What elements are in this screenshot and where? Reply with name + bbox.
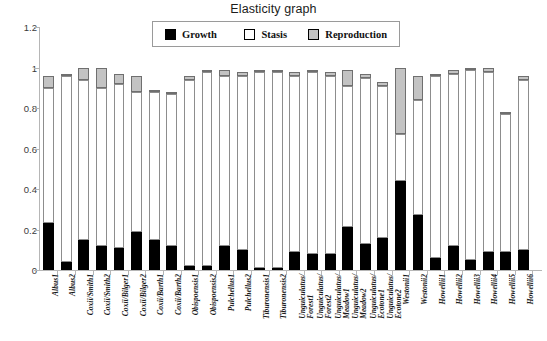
- x-axis-label: Coxii/Barth2: [175, 274, 183, 315]
- bar-stack[interactable]: [202, 70, 213, 270]
- bar-segment-reproduction[interactable]: [413, 76, 424, 100]
- bar-segment-growth[interactable]: [43, 223, 54, 270]
- y-tick-mark: [34, 189, 40, 190]
- bar-segment-growth[interactable]: [483, 252, 494, 270]
- bar-stack[interactable]: [342, 70, 353, 270]
- bar-segment-stasis[interactable]: [289, 76, 300, 252]
- bar-stack[interactable]: [377, 82, 388, 270]
- bar-segment-growth[interactable]: [289, 252, 300, 270]
- bar-segment-stasis[interactable]: [61, 76, 72, 262]
- bar-stack[interactable]: [289, 72, 300, 270]
- bar-segment-growth[interactable]: [395, 181, 406, 270]
- bar-stack[interactable]: [166, 92, 177, 270]
- x-axis-label: Coxii/Bilger2: [140, 274, 148, 316]
- bar-segment-growth[interactable]: [500, 252, 511, 270]
- bar-stack[interactable]: [219, 70, 230, 270]
- bar-segment-stasis[interactable]: [131, 92, 142, 232]
- bar-stack[interactable]: [43, 76, 54, 270]
- bar-segment-growth[interactable]: [342, 227, 353, 270]
- bar-segment-stasis[interactable]: [342, 86, 353, 228]
- bar-segment-stasis[interactable]: [166, 94, 177, 246]
- bar-stack[interactable]: [61, 74, 72, 270]
- bar-segment-reproduction[interactable]: [96, 68, 107, 88]
- bar-stack[interactable]: [518, 76, 529, 270]
- bar-segment-growth[interactable]: [413, 215, 424, 270]
- bar-segment-growth[interactable]: [272, 268, 283, 270]
- bar-stack[interactable]: [272, 70, 283, 270]
- bar-segment-stasis[interactable]: [78, 80, 89, 240]
- bar-stack[interactable]: [131, 76, 142, 270]
- x-axis-label: Coxii/Smith2: [104, 274, 112, 315]
- bar-segment-reproduction[interactable]: [43, 76, 54, 88]
- bar-segment-growth[interactable]: [307, 254, 318, 270]
- bar-segment-stasis[interactable]: [149, 92, 160, 240]
- bar-stack[interactable]: [237, 72, 248, 270]
- bar-segment-stasis[interactable]: [448, 74, 459, 246]
- bar-segment-growth[interactable]: [131, 232, 142, 270]
- bar-segment-growth[interactable]: [237, 250, 248, 270]
- bar-segment-growth[interactable]: [96, 246, 107, 270]
- bar-stack[interactable]: [360, 74, 371, 270]
- bar-segment-stasis[interactable]: [325, 76, 336, 254]
- bar-segment-growth[interactable]: [360, 244, 371, 270]
- bar-stack[interactable]: [465, 68, 476, 271]
- bar-stack[interactable]: [500, 112, 511, 270]
- bar-segment-reproduction[interactable]: [131, 76, 142, 92]
- bar-segment-growth[interactable]: [448, 246, 459, 270]
- bar-segment-growth[interactable]: [114, 248, 125, 270]
- bar-segment-growth[interactable]: [465, 260, 476, 270]
- bar-segment-reproduction[interactable]: [78, 68, 89, 80]
- bar-segment-stasis[interactable]: [360, 78, 371, 244]
- bar-segment-stasis[interactable]: [413, 100, 424, 215]
- bar-stack[interactable]: [448, 70, 459, 270]
- bar-segment-growth[interactable]: [202, 266, 213, 270]
- bar-segment-growth[interactable]: [430, 258, 441, 270]
- bar-segment-stasis[interactable]: [184, 80, 195, 266]
- bar-stack[interactable]: [325, 72, 336, 270]
- bar-segment-growth[interactable]: [78, 240, 89, 270]
- bar-segment-stasis[interactable]: [307, 72, 318, 254]
- bar-segment-stasis[interactable]: [114, 84, 125, 248]
- bar-segment-stasis[interactable]: [430, 76, 441, 258]
- bar-stack[interactable]: [307, 70, 318, 270]
- bar-stack[interactable]: [254, 70, 265, 270]
- bar-segment-growth[interactable]: [149, 240, 160, 270]
- bar-segment-stasis[interactable]: [465, 70, 476, 260]
- bar-stack[interactable]: [184, 76, 195, 270]
- bar-stack[interactable]: [96, 68, 107, 271]
- bar-segment-stasis[interactable]: [219, 76, 230, 246]
- bar-segment-growth[interactable]: [254, 268, 265, 270]
- bar-segment-stasis[interactable]: [377, 86, 388, 238]
- bar-segment-stasis[interactable]: [202, 72, 213, 266]
- bar-segment-reproduction[interactable]: [114, 74, 125, 84]
- bar-segment-growth[interactable]: [219, 246, 230, 270]
- bar-segment-reproduction[interactable]: [395, 68, 406, 135]
- bar-segment-stasis[interactable]: [395, 134, 406, 181]
- bar-segment-stasis[interactable]: [237, 76, 248, 250]
- bar-stack[interactable]: [395, 68, 406, 271]
- bar-stack[interactable]: [78, 68, 89, 271]
- y-tick-mark: [34, 108, 40, 109]
- bar-segment-stasis[interactable]: [518, 80, 529, 250]
- bar-segment-stasis[interactable]: [43, 88, 54, 224]
- bar-stack[interactable]: [430, 74, 441, 270]
- bar-segment-growth[interactable]: [166, 246, 177, 270]
- bar-segment-stasis[interactable]: [483, 72, 494, 252]
- bar-segment-stasis[interactable]: [254, 72, 265, 268]
- elasticity-chart: Elasticity graph Growth Stasis Reproduct…: [0, 0, 547, 341]
- bar-stack[interactable]: [483, 68, 494, 271]
- bar-segment-growth[interactable]: [61, 262, 72, 270]
- bar-segment-growth[interactable]: [325, 254, 336, 270]
- bar-stack[interactable]: [149, 90, 160, 270]
- bar-stack[interactable]: [114, 74, 125, 270]
- bar-segment-growth[interactable]: [184, 266, 195, 270]
- bar-stack[interactable]: [413, 76, 424, 270]
- y-tick-label: 1.2: [0, 22, 37, 33]
- bar-segment-stasis[interactable]: [272, 72, 283, 268]
- bar-segment-reproduction[interactable]: [342, 70, 353, 86]
- x-axis-label: Tiburonensis1: [263, 274, 271, 319]
- bar-segment-stasis[interactable]: [96, 88, 107, 246]
- bar-segment-stasis[interactable]: [500, 114, 511, 252]
- bar-segment-growth[interactable]: [377, 238, 388, 270]
- bar-segment-growth[interactable]: [518, 250, 529, 270]
